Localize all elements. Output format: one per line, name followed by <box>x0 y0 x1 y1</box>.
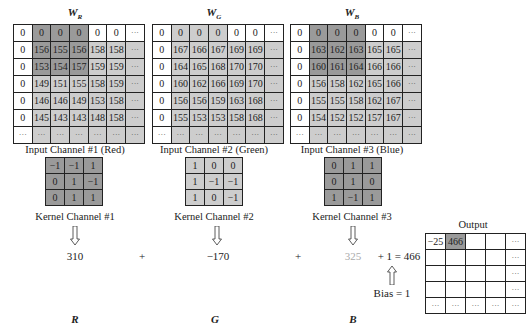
kernel-cell: 1 <box>363 158 382 174</box>
matrix-row: ··· <box>426 250 526 266</box>
matrix-cell <box>466 282 486 298</box>
matrix-cell: 0 <box>32 25 51 42</box>
matrix-cell: ··· <box>88 127 107 144</box>
matrix-cell: ··· <box>171 127 190 144</box>
matrix-cell: ··· <box>265 59 284 76</box>
matrix-cell: 145 <box>32 110 51 127</box>
matrix-cell: 0 <box>291 25 310 42</box>
matrix-cell <box>466 234 486 250</box>
kernel-cell: 0 <box>224 158 243 174</box>
matrix-cell: 163 <box>309 42 328 59</box>
matrix-cell: 0 <box>70 25 89 42</box>
matrix-cell: 146 <box>32 93 51 110</box>
matrix-cell: ··· <box>14 127 33 144</box>
channel-label-green: G <box>205 313 225 325</box>
matrix-cell <box>426 266 446 282</box>
matrix-cell: 153 <box>190 110 209 127</box>
matrix-cell: 155 <box>171 110 190 127</box>
matrix-cell: ··· <box>403 25 422 42</box>
title-text: W <box>207 6 217 18</box>
matrix-cell: 0 <box>190 25 209 42</box>
matrix-cell: 0 <box>246 25 265 42</box>
matrix-cell: 156 <box>171 93 190 110</box>
matrix-cell: ··· <box>486 298 506 314</box>
plus-sign: + <box>132 250 152 262</box>
kernel-cell: 1 <box>344 174 363 190</box>
matrix-cell: ··· <box>506 250 526 266</box>
matrix-cell: ··· <box>384 127 403 144</box>
kernel-cell: −1 <box>224 174 243 190</box>
matrix-cell: 167 <box>384 93 403 110</box>
matrix-cell: ··· <box>403 42 422 59</box>
matrix-cell: ··· <box>209 127 228 144</box>
kernel-caption-2: Kernel Channel #2 <box>139 211 289 222</box>
matrix-cell: 169 <box>246 42 265 59</box>
kernel-row: −1−11 <box>46 158 103 174</box>
matrix-cell: 166 <box>209 76 228 93</box>
matrix-cell: 154 <box>309 110 328 127</box>
matrix-row: ··· <box>426 266 526 282</box>
matrix-cell: 162 <box>347 76 366 93</box>
matrix-cell: 156 <box>309 76 328 93</box>
matrix-cell: 0 <box>14 76 33 93</box>
input-title-red: WR <box>13 6 137 21</box>
kernel-cell: 0 <box>205 158 224 174</box>
matrix-cell: ··· <box>32 127 51 144</box>
matrix-cell: 0 <box>309 25 328 42</box>
matrix-cell: 170 <box>246 59 265 76</box>
plus-sign: + <box>288 250 308 262</box>
matrix-cell <box>486 250 506 266</box>
matrix-cell: −25 <box>426 234 446 250</box>
matrix-cell: 0 <box>153 42 172 59</box>
matrix-cell: 159 <box>107 59 126 76</box>
matrix-cell: ··· <box>227 127 246 144</box>
matrix-cell: 160 <box>171 76 190 93</box>
kernel-row: 100 <box>186 158 243 174</box>
result-blue: 325 <box>333 250 373 262</box>
matrix-cell: 0 <box>291 110 310 127</box>
matrix-row: 000000··· <box>291 25 422 42</box>
kernel-cell: −1 <box>224 190 243 206</box>
kernel-row: 01−1 <box>46 174 103 190</box>
kernel-cell: 1 <box>65 190 84 206</box>
matrix-cell: 159 <box>107 76 126 93</box>
matrix-cell: 158 <box>107 42 126 59</box>
matrix-row: ····················· <box>291 127 422 144</box>
matrix-row: 0153154157159159··· <box>14 59 145 76</box>
matrix-cell: ··· <box>403 127 422 144</box>
kernel-cell: 0 <box>205 190 224 206</box>
input-caption-green: Input Channel #2 (Green) <box>139 144 289 155</box>
matrix-cell: ··· <box>466 298 486 314</box>
input-title-green: WG <box>152 6 276 21</box>
matrix-cell: ··· <box>426 298 446 314</box>
matrix-cell: 155 <box>70 76 89 93</box>
down-arrow-icon <box>70 226 78 246</box>
matrix-cell: 164 <box>347 59 366 76</box>
matrix-cell: ··· <box>126 110 145 127</box>
matrix-cell: 158 <box>88 76 107 93</box>
matrix-cell <box>486 234 506 250</box>
matrix-cell: 0 <box>88 25 107 42</box>
matrix-cell: 165 <box>365 42 384 59</box>
kernel-cell: 0 <box>325 158 344 174</box>
matrix-cell: 0 <box>384 25 403 42</box>
matrix-cell: ··· <box>506 282 526 298</box>
kernel-cell: 0 <box>46 190 65 206</box>
matrix-cell: 0 <box>107 25 126 42</box>
matrix-cell: 156 <box>32 42 51 59</box>
matrix-cell: 168 <box>209 59 228 76</box>
matrix-row: 0160161164166166··· <box>291 59 422 76</box>
matrix-cell: 0 <box>291 93 310 110</box>
matrix-cell: 158 <box>88 42 107 59</box>
matrix-cell <box>486 282 506 298</box>
matrix-cell: ··· <box>190 127 209 144</box>
matrix-cell: 156 <box>70 42 89 59</box>
matrix-cell: 167 <box>209 42 228 59</box>
kernel-row: 1−1−1 <box>186 174 243 190</box>
matrix-cell: 158 <box>107 110 126 127</box>
matrix-cell: 158 <box>107 93 126 110</box>
matrix-cell: 162 <box>365 93 384 110</box>
matrix-cell: 143 <box>70 110 89 127</box>
matrix-cell: 0 <box>227 25 246 42</box>
matrix-cell: ··· <box>265 110 284 127</box>
